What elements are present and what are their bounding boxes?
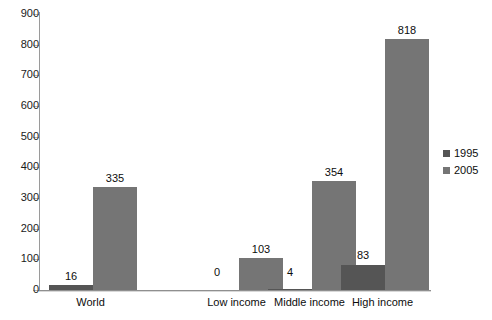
bar-label-high-income-1995: 83 bbox=[341, 250, 385, 261]
legend-item-2005[interactable]: 2005 bbox=[443, 163, 478, 177]
legend-label-2005: 2005 bbox=[454, 165, 478, 176]
y-tick-label: 600 bbox=[5, 100, 39, 111]
bar-high-income-2005[interactable] bbox=[385, 39, 429, 290]
bar-label-low-income-1995: 0 bbox=[195, 267, 239, 278]
y-tick-label: 900 bbox=[5, 8, 39, 19]
chart-legend: 1995 2005 bbox=[443, 146, 478, 180]
plot-area: 16 335 0 103 4 354 83 818 bbox=[39, 14, 430, 290]
y-tick-label: 800 bbox=[5, 39, 39, 50]
x-axis-shadow bbox=[39, 291, 431, 292]
bar-world-1995[interactable] bbox=[49, 285, 93, 290]
category-label-world: World bbox=[43, 296, 138, 309]
y-tick-label: 200 bbox=[5, 223, 39, 234]
bar-world-2005[interactable] bbox=[93, 187, 137, 290]
y-tick-label: 700 bbox=[5, 69, 39, 80]
y-tick-label: 100 bbox=[5, 253, 39, 264]
bar-label-middle-income-1995: 4 bbox=[268, 267, 312, 278]
bar-group-high-income: 83 818 bbox=[335, 14, 426, 290]
bar-chart: 900 800 700 600 500 400 300 200 bbox=[0, 0, 492, 320]
chart-title bbox=[0, 0, 492, 3]
bar-high-income-1995[interactable] bbox=[341, 265, 385, 291]
y-tick-label: 300 bbox=[5, 192, 39, 203]
legend-swatch-icon-1995 bbox=[443, 150, 450, 157]
category-label-high-income: High income bbox=[335, 296, 430, 309]
y-tick-label: 500 bbox=[5, 131, 39, 142]
bar-label-world-2005: 335 bbox=[93, 173, 137, 184]
bar-label-world-1995: 16 bbox=[49, 271, 93, 282]
bar-group-world: 16 335 bbox=[43, 14, 134, 290]
legend-item-1995[interactable]: 1995 bbox=[443, 146, 478, 160]
legend-label-1995: 1995 bbox=[454, 148, 478, 159]
y-tick-label: 0 bbox=[5, 284, 39, 295]
legend-swatch-icon-2005 bbox=[443, 167, 450, 174]
bar-label-high-income-2005: 818 bbox=[385, 25, 429, 36]
bar-middle-income-1995[interactable] bbox=[268, 289, 312, 290]
y-tick-label: 400 bbox=[5, 161, 39, 172]
